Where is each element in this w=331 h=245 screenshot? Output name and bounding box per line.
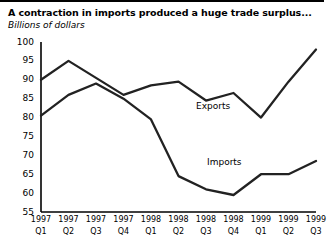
x-tick-quarter: Q3 xyxy=(81,227,111,236)
x-tick-year: 1999 xyxy=(301,215,331,224)
plot-area: 100959085807570656055 1997Q11997Q21997Q3… xyxy=(0,2,324,245)
x-tick-label: 1999Q2 xyxy=(274,215,304,236)
x-tick-quarter: Q1 xyxy=(26,227,56,236)
x-tick-year: 1997 xyxy=(81,215,111,224)
x-tick-year: 1998 xyxy=(164,215,194,224)
x-tick-year: 1997 xyxy=(109,215,139,224)
x-tick-quarter: Q4 xyxy=(109,227,139,236)
axes xyxy=(41,42,316,212)
data-lines xyxy=(41,50,316,195)
x-tick-label: 1999Q3 xyxy=(301,215,331,236)
y-tick-label: 65 xyxy=(8,170,34,179)
x-tick-quarter: Q3 xyxy=(191,227,221,236)
y-tick-label: 95 xyxy=(8,56,34,65)
x-tick-year: 1998 xyxy=(219,215,249,224)
x-tick-label: 1998Q1 xyxy=(136,215,166,236)
x-tick-quarter: Q2 xyxy=(274,227,304,236)
y-tick-label: 85 xyxy=(8,94,34,103)
x-tick-label: 1998Q2 xyxy=(164,215,194,236)
chart-svg xyxy=(0,2,324,245)
y-tick-label: 90 xyxy=(8,75,34,84)
x-tick-label: 1997Q3 xyxy=(81,215,111,236)
x-tick-year: 1999 xyxy=(246,215,276,224)
y-tick-label: 60 xyxy=(8,189,34,198)
y-tick-label: 80 xyxy=(8,113,34,122)
x-tick-label: 1998Q3 xyxy=(191,215,221,236)
x-tick-year: 1998 xyxy=(191,215,221,224)
x-tick-quarter: Q3 xyxy=(301,227,331,236)
x-tick-label: 1998Q4 xyxy=(219,215,249,236)
x-tick-quarter: Q1 xyxy=(246,227,276,236)
x-tick-year: 1999 xyxy=(274,215,304,224)
series-label-imports: Imports xyxy=(207,158,242,167)
exports-line xyxy=(41,50,316,118)
y-tick-label: 100 xyxy=(8,38,34,47)
x-tick-label: 1999Q1 xyxy=(246,215,276,236)
x-tick-label: 1997Q2 xyxy=(54,215,84,236)
x-tick-label: 1997Q1 xyxy=(26,215,56,236)
x-tick-quarter: Q1 xyxy=(136,227,166,236)
x-tick-quarter: Q4 xyxy=(219,227,249,236)
x-tick-label: 1997Q4 xyxy=(109,215,139,236)
x-tick-year: 1998 xyxy=(136,215,166,224)
x-tick-quarter: Q2 xyxy=(164,227,194,236)
y-tick-label: 70 xyxy=(8,151,34,160)
x-tick-year: 1997 xyxy=(54,215,84,224)
series-label-exports: Exports xyxy=(196,102,230,111)
x-tick-year: 1997 xyxy=(26,215,56,224)
x-tick-quarter: Q2 xyxy=(54,227,84,236)
y-tick-label: 75 xyxy=(8,132,34,141)
